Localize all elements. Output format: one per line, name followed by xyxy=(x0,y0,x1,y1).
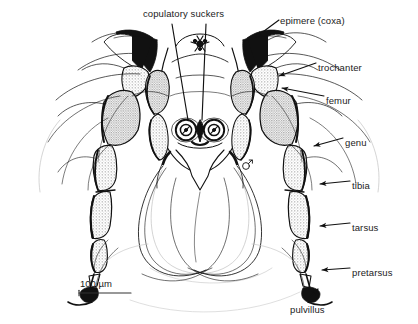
label-tarsus: tarsus xyxy=(352,223,378,233)
label-femur: femur xyxy=(326,96,351,106)
label-epimere-coxa: epimere (coxa) xyxy=(280,16,345,26)
leg-left xyxy=(58,30,157,305)
label-trochanter: trochanter xyxy=(318,63,362,73)
label-genu: genu xyxy=(345,138,367,148)
scale-bar-label: 100 µm xyxy=(80,278,112,289)
mite-anatomy-figure: copulatory suckers epimere (coxa) trocha… xyxy=(0,0,418,324)
leader-tarsus xyxy=(320,223,350,226)
male-symbol xyxy=(243,160,253,169)
label-tibia: tibia xyxy=(352,181,370,191)
leader-pretarsus xyxy=(322,268,350,270)
label-pretarsus: pretarsus xyxy=(352,268,393,278)
leader-tibia xyxy=(320,181,350,184)
label-pulvillus: pulvillus xyxy=(290,305,325,315)
label-copulatory-suckers: copulatory suckers xyxy=(143,9,224,19)
